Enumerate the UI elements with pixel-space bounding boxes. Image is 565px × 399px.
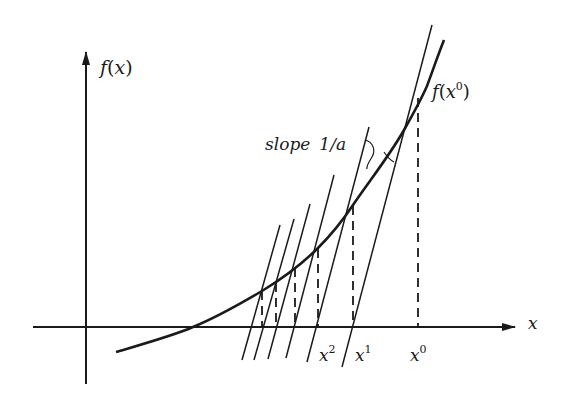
iterate-label-x1: x1 — [355, 343, 372, 365]
y-axis-label: f(x) — [98, 56, 133, 78]
slope-line-3 — [268, 204, 310, 359]
x-axis-label: x — [528, 313, 538, 333]
f-x0-label: f(x0) — [430, 80, 470, 102]
iterate-label-x2: x2 — [319, 343, 336, 365]
slope-pointer — [365, 140, 374, 169]
iterate-label-x0: x0 — [410, 343, 427, 365]
slope-label: slope1/a — [265, 134, 346, 154]
slope-lines — [242, 25, 432, 367]
slope-line-5 — [242, 225, 280, 360]
diagram-canvas: f(x) x f(x0) slope1/a x0 x1 x2 — [0, 0, 565, 399]
function-curve — [116, 40, 444, 352]
